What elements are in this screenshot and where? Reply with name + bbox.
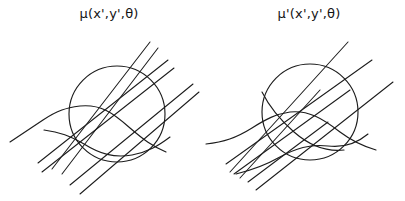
ray-line (42, 68, 174, 172)
ray-pair-middle-right (226, 60, 372, 174)
ray-pair-upper-right (230, 42, 348, 178)
ray-line (248, 122, 328, 182)
panel-right: μ'(x',y',θ) (200, 0, 402, 201)
ray-diagram-figure: μ(x',y',θ) (0, 0, 405, 201)
ray-line (256, 82, 393, 190)
ray-pair-lower-right (248, 82, 393, 190)
curved-ray-middle-right (262, 92, 344, 150)
mu-primed-label: μ'(x',y',θ) (200, 6, 405, 22)
panel-right-artwork (200, 22, 402, 201)
panel-left-artwork (0, 22, 202, 201)
panel-left: μ(x',y',θ) (0, 0, 202, 201)
ray-line (52, 42, 150, 169)
medium-circle-left (69, 66, 165, 162)
ray-line (240, 90, 320, 178)
curved-ray-upper-left (10, 106, 166, 152)
ray-pair-lower-left (70, 84, 199, 194)
ray-line (70, 84, 193, 185)
mu-unprimed-label: μ(x',y',θ) (0, 6, 210, 22)
